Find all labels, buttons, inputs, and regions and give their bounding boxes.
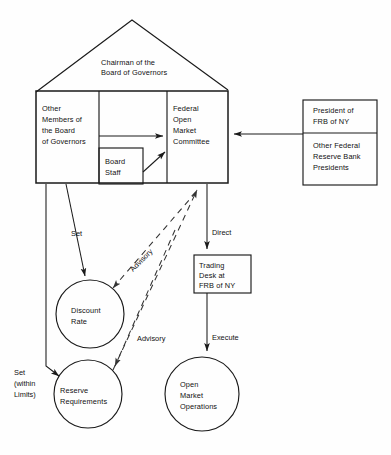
other-presidents-line3: Presidents — [313, 163, 349, 172]
omo-line1: Open — [180, 380, 198, 389]
roof-label-line1: Chairman of the — [101, 58, 155, 67]
fomc-line4: Committee — [173, 137, 210, 146]
edge-label-direct: Direct — [212, 228, 231, 237]
other-members-line3: the Board — [42, 126, 75, 135]
set-limits-line1: Set — [14, 368, 25, 377]
board-staff-line2: Staff — [105, 168, 121, 177]
node-board-staff: Board Staff — [99, 148, 143, 184]
omo-line2: Market — [180, 391, 203, 400]
edge-advisory-discount-rate — [113, 192, 196, 288]
fomc-line2: Open — [173, 115, 191, 124]
other-members-line1: Other — [42, 104, 61, 113]
other-presidents-line1: Other Federal — [313, 141, 360, 150]
trading-desk-line3: FRB of NY — [199, 281, 235, 290]
other-presidents-line2: Reserve Bank — [313, 152, 361, 161]
node-open-market-operations: Open Market Operations — [165, 357, 239, 431]
discount-rate-line1: Discount — [71, 306, 101, 315]
edge-label-advisory-lower: Advisory — [137, 334, 166, 343]
roof-label-line2: Board of Governors — [101, 68, 167, 77]
edge-label-execute: Execute — [212, 333, 239, 342]
fomc-line1: Federal — [173, 104, 199, 113]
node-other-reserve-presidents: Other Federal Reserve Bank Presidents — [313, 141, 361, 172]
edge-staff-to-fomc — [143, 152, 165, 172]
node-other-board-members: Other Members of the Board of Governors — [42, 104, 86, 146]
house-roof — [36, 20, 228, 92]
other-members-line4: of Governors — [42, 137, 86, 146]
omo-line3: Operations — [180, 402, 217, 411]
set-limits-line3: Limits) — [14, 390, 36, 399]
fed-structure-diagram: Chairman of the Board of Governors Other… — [0, 0, 391, 455]
board-staff-line1: Board — [105, 157, 125, 166]
node-fomc: Federal Open Market Committee — [173, 104, 210, 146]
discount-rate-line2: Rate — [71, 317, 87, 326]
roof-label-chairman: Chairman of the Board of Governors — [101, 58, 167, 77]
reserve-req-line2: Requirements — [60, 397, 107, 406]
diagram-canvas: Chairman of the Board of Governors Other… — [0, 0, 391, 455]
edge-label-set-within-limits: Set (within Limits) — [14, 368, 36, 399]
reserve-req-line1: Reserve — [60, 386, 88, 395]
set-limits-line2: (within — [14, 379, 35, 388]
fomc-line3: Market — [173, 126, 196, 135]
node-trading-desk: Trading Desk at FRB of NY — [194, 255, 251, 293]
trading-desk-line2: Desk at — [199, 271, 225, 280]
edge-label-advisory-upper: Advisory — [128, 247, 155, 274]
other-members-line2: Members of — [42, 115, 83, 124]
trading-desk-line1: Trading — [199, 261, 224, 270]
president-line1: President of — [313, 106, 354, 115]
node-discount-rate: Discount Rate — [56, 280, 124, 348]
node-reserve-requirements: Reserve Requirements — [54, 360, 122, 428]
president-line2: FRB of NY — [313, 117, 349, 126]
edge-set-limits-to-reserve — [46, 184, 59, 376]
edge-label-set: Set — [71, 229, 82, 238]
